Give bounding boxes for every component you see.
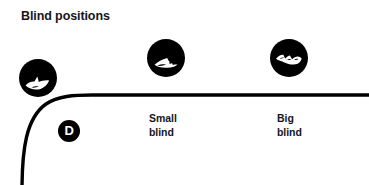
dealer-button: D: [58, 120, 80, 142]
poker-chip-small-blind: [147, 39, 185, 77]
poker-chip-icon: [270, 39, 308, 77]
blind-positions-figure: Blind positions D Small blind Bi: [0, 0, 369, 185]
caption-big-blind: Big blind: [277, 112, 302, 139]
poker-chip-icon: [147, 39, 185, 77]
poker-chip-big-blind: [270, 39, 308, 77]
figure-title: Blind positions: [21, 9, 110, 23]
caption-small-blind: Small blind: [149, 112, 177, 139]
dealer-button-label: D: [58, 120, 80, 142]
poker-chip-dealer: [19, 59, 57, 97]
poker-chip-icon: [19, 59, 57, 97]
